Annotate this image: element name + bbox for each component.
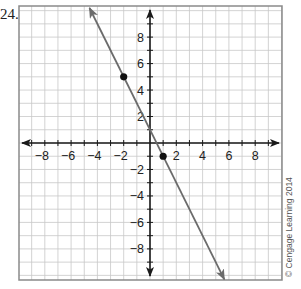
data-point [120,73,127,80]
data-point [160,153,167,160]
copyright-credit: © Cengage Learning 2014 [284,177,294,277]
x-tick-label: 2 [173,149,180,163]
y-tick-label: −8 [130,242,144,256]
x-tick-label: 8 [252,149,259,163]
coordinate-graph: −8−6−4−224688642−2−4−6−8 [0,0,301,289]
x-tick-label: −4 [87,149,101,163]
x-tick-label: 6 [225,149,232,163]
y-tick-label: −4 [130,189,144,203]
x-tick-label: −8 [35,149,49,163]
x-tick-label: 4 [199,149,206,163]
x-tick-label: −6 [61,149,75,163]
line-arrow-down [157,144,224,280]
y-tick-label: 8 [137,31,144,45]
y-tick-label: −6 [130,216,144,230]
y-tick-label: 4 [137,84,144,98]
x-tick-label: −2 [114,149,128,163]
y-tick-label: −2 [130,163,144,177]
y-tick-label: 6 [137,57,144,71]
